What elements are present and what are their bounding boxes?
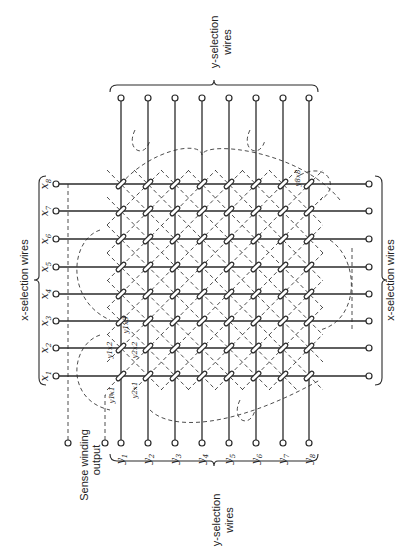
core-label: y1x3: [122, 316, 130, 334]
sense-winding-label-2: output: [90, 445, 102, 476]
sense-terminal-1: [65, 440, 71, 446]
terminal-top-y2: [145, 95, 151, 101]
y-selection-label-bottom-2: wires: [223, 507, 235, 534]
sense-loop-left-upper: [77, 230, 110, 320]
y-wire-label-4: y4: [195, 454, 210, 466]
terminal-right-x8: [366, 181, 372, 187]
x-wire-label-2: x2: [38, 342, 53, 353]
terminal-top-y3: [172, 95, 178, 101]
sense-diagonal: [107, 170, 162, 225]
sense-loop-right: [320, 240, 351, 330]
y-wire-label-2: y2: [141, 453, 156, 465]
terminal-bottom-y7: [280, 440, 286, 446]
sense-diagonal: [107, 170, 270, 335]
x-selection-label-left: x-selection wires: [18, 239, 30, 321]
sense-loop-top: [121, 148, 340, 200]
terminal-right-x5: [366, 264, 372, 270]
y-wire-label-8: y8: [302, 453, 317, 465]
terminal-right-x1: [366, 373, 372, 379]
x-wire-label-1: x1: [38, 371, 53, 382]
terminal-right-x4: [366, 291, 372, 297]
terminal-right-x3: [366, 318, 372, 324]
terminal-top-y7: [280, 95, 286, 101]
sense-loop-twist-1: [132, 130, 150, 151]
y-selection-label-bottom-1: y-selection: [210, 494, 222, 547]
core-label: y8x8: [294, 169, 302, 187]
terminal-bottom-y8: [306, 440, 312, 446]
core-label: y1x2: [106, 341, 114, 359]
terminal-left-x5: [53, 264, 59, 270]
y-selection-label-top-2: wires: [221, 29, 233, 56]
selection-wires: [59, 101, 366, 440]
y-wire-labels: y1y2y3y4y5y6y7y8: [114, 453, 317, 465]
y-selection-label-top-1: y-selection: [208, 16, 220, 69]
y-wire-label-6: y6: [249, 453, 264, 465]
core-label: y1x1: [108, 387, 116, 405]
sense-terminal-2: [102, 440, 108, 446]
terminal-bottom-y1: [118, 440, 124, 446]
sense-winding-label-1: Sense winding: [78, 429, 90, 501]
terminal-top-y6: [253, 95, 259, 101]
terminal-bottom-y2: [145, 440, 151, 446]
terminal-left-x8: [53, 181, 59, 187]
braces: [34, 80, 387, 466]
core-memory-diagram: x1x2x3x4x5x6x7x8 y1y2y3y4y5y6y7y8 x-sele…: [0, 0, 400, 552]
terminal-left-x6: [53, 236, 59, 242]
core-label: y2x2: [131, 341, 139, 359]
x-wire-label-4: x4: [38, 289, 53, 300]
terminal-top-y1: [118, 95, 124, 101]
terminal-bottom-y6: [253, 440, 259, 446]
terminal-bottom-y4: [199, 440, 205, 446]
y-wire-label-3: y3: [168, 453, 183, 465]
x-wire-label-8: x8: [38, 178, 53, 189]
x-selection-label-right: x-selection wires: [384, 239, 396, 321]
terminal-left-x4: [53, 291, 59, 297]
terminal-top-y4: [199, 95, 205, 101]
wire-terminals: [53, 95, 372, 446]
brace-top-y: [110, 80, 318, 92]
x-wire-label-3: x3: [38, 315, 53, 326]
diagram-svg: x1x2x3x4x5x6x7x8 y1y2y3y4y5y6y7y8 x-sele…: [0, 0, 400, 552]
core-labels: y1x1y1x2y1x3y2x1y2x2y8x8: [106, 169, 302, 404]
y-wire-label-7: y7: [276, 453, 291, 465]
terminal-bottom-y3: [172, 440, 178, 446]
y-wire-label-1: y1: [114, 454, 129, 466]
terminal-left-x3: [53, 318, 59, 324]
y-wire-label-5: y5: [222, 453, 237, 465]
terminal-right-x6: [366, 236, 372, 242]
core-label: y2x1: [131, 382, 139, 400]
terminal-left-x7: [53, 208, 59, 214]
terminal-left-x2: [53, 345, 59, 351]
terminal-left-x1: [53, 373, 59, 379]
x-wire-label-5: x5: [38, 261, 53, 272]
terminal-top-y5: [226, 95, 232, 101]
x-wire-label-7: x7: [38, 205, 53, 216]
terminal-top-y8: [306, 95, 312, 101]
x-wire-labels: x1x2x3x4x5x6x7x8: [38, 178, 53, 381]
terminal-right-x2: [366, 345, 372, 351]
terminal-bottom-y5: [226, 440, 232, 446]
x-wire-label-6: x6: [38, 233, 53, 244]
terminal-right-x7: [366, 208, 372, 214]
